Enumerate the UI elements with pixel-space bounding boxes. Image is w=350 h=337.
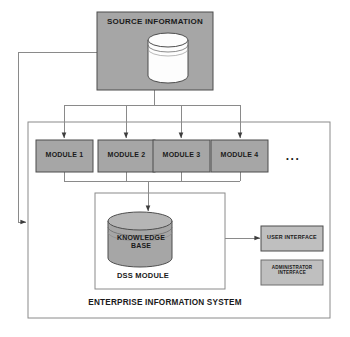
user-interface-box <box>261 226 323 251</box>
administrator-interface-box <box>261 260 323 285</box>
knowledge-base-cylinder-icon <box>108 212 172 267</box>
module-3-box <box>153 140 210 172</box>
module-4-box <box>211 140 268 172</box>
module-1-box <box>36 140 93 172</box>
diagram-canvas: SOURCE INFORMATION MODULE 1 MODULE 2 MOD… <box>0 0 350 337</box>
source-database-cylinder-icon <box>148 33 188 83</box>
shape-layer <box>0 0 350 337</box>
module-2-box <box>98 140 155 172</box>
